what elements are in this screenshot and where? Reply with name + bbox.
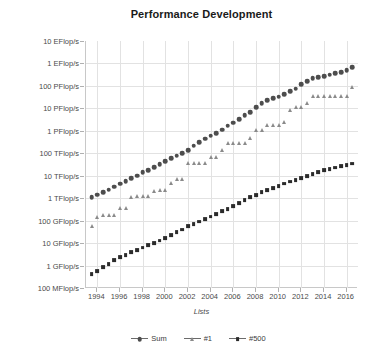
y-gridline <box>86 176 358 177</box>
data-point-n500 <box>209 215 213 219</box>
x-axis-tick-label: 2014 <box>315 292 332 301</box>
data-point-Sum <box>310 76 315 81</box>
data-point-n1 <box>294 105 298 109</box>
data-point-Sum <box>89 195 94 200</box>
data-point-Sum <box>305 79 310 84</box>
y-gridline <box>86 63 358 64</box>
data-point-Sum <box>327 73 332 78</box>
data-point-Sum <box>197 140 202 145</box>
data-point-Sum <box>265 98 270 103</box>
data-point-n1 <box>282 120 286 124</box>
data-point-n1 <box>345 94 349 98</box>
x-axis-tick-label: 2010 <box>269 292 286 301</box>
data-point-Sum <box>203 137 208 142</box>
data-point-n500 <box>271 186 275 190</box>
y-tick-mark <box>80 153 84 154</box>
y-tick-mark <box>80 131 84 132</box>
data-point-n500 <box>129 250 133 254</box>
data-point-n500 <box>152 241 156 245</box>
data-point-n500 <box>90 272 94 276</box>
data-point-Sum <box>123 179 128 184</box>
y-axis-tick-label: 100 MFlop/s <box>38 284 79 293</box>
data-point-n500 <box>339 165 343 169</box>
data-point-n1 <box>135 194 139 198</box>
data-point-Sum <box>299 82 304 87</box>
data-point-n1 <box>118 206 122 210</box>
data-point-n1 <box>243 141 247 145</box>
y-gridline <box>86 266 358 267</box>
data-point-Sum <box>135 173 140 178</box>
y-axis-tick-label: 10 GFlop/s <box>42 239 79 248</box>
data-point-Sum <box>316 75 321 80</box>
x-axis-tick-label: 2016 <box>337 292 354 301</box>
x-axis-tick-label: 1996 <box>111 292 128 301</box>
data-point-n1 <box>311 94 315 98</box>
y-gridline <box>86 198 358 199</box>
data-point-Sum <box>214 131 219 136</box>
data-point-n500 <box>95 269 99 273</box>
y-tick-mark <box>80 86 84 87</box>
x-axis-tick-label: 1998 <box>133 292 150 301</box>
x-gridline <box>120 41 121 288</box>
data-point-n1 <box>237 141 241 145</box>
data-point-Sum <box>101 190 106 195</box>
y-gridline <box>86 221 358 222</box>
data-point-n500 <box>288 180 292 184</box>
y-tick-mark <box>80 63 84 64</box>
y-tick-mark <box>80 198 84 199</box>
data-point-Sum <box>208 134 213 139</box>
data-point-n1 <box>112 213 116 217</box>
data-point-Sum <box>157 162 162 167</box>
data-point-n1 <box>124 206 128 210</box>
data-point-Sum <box>118 181 123 186</box>
data-point-n1 <box>299 105 303 109</box>
data-point-n500 <box>237 201 241 205</box>
chart-legend: Sum#1#500 <box>0 334 375 343</box>
data-point-n500 <box>118 255 122 259</box>
data-point-n1 <box>146 194 150 198</box>
y-gridline <box>86 86 358 87</box>
data-point-Sum <box>259 101 264 106</box>
y-gridline <box>86 153 358 154</box>
x-gridline <box>256 41 257 288</box>
data-point-n500 <box>192 222 196 226</box>
data-point-n500 <box>231 204 235 208</box>
y-tick-mark <box>80 266 84 267</box>
data-point-n1 <box>186 161 190 165</box>
data-point-n500 <box>175 230 179 234</box>
data-point-Sum <box>248 110 253 115</box>
y-tick-mark <box>80 288 84 289</box>
legend-item-n500[interactable]: #500 <box>229 334 266 343</box>
x-gridline <box>211 41 212 288</box>
x-gridline <box>143 41 144 288</box>
data-point-n500 <box>260 191 264 195</box>
data-point-n500 <box>316 170 320 174</box>
data-point-n500 <box>305 174 309 178</box>
data-point-n1 <box>169 181 173 185</box>
data-point-n1 <box>316 94 320 98</box>
data-point-n500 <box>254 193 258 197</box>
data-point-n1 <box>350 85 354 89</box>
data-point-n500 <box>282 182 286 186</box>
x-gridline <box>165 41 166 288</box>
data-point-Sum <box>140 170 145 175</box>
y-tick-mark <box>80 41 84 42</box>
legend-item-Sum[interactable]: Sum <box>131 334 166 343</box>
performance-development-chart: Performance Development 10 EFlop/s1 EFlo… <box>0 0 375 364</box>
data-point-n500 <box>101 265 105 269</box>
x-axis-tick-label: 2002 <box>179 292 196 301</box>
data-point-n1 <box>163 188 167 192</box>
data-point-n1 <box>226 141 230 145</box>
data-point-Sum <box>288 89 293 94</box>
data-point-n1 <box>260 128 264 132</box>
data-point-n500 <box>333 166 337 170</box>
legend-item-n1[interactable]: #1 <box>184 334 212 343</box>
x-axis-tick-label: 2006 <box>224 292 241 301</box>
data-point-n1 <box>220 148 224 152</box>
data-point-Sum <box>271 96 276 101</box>
data-point-Sum <box>350 65 355 70</box>
data-point-n500 <box>345 163 349 167</box>
data-point-Sum <box>333 71 338 76</box>
data-point-n1 <box>192 161 196 165</box>
y-axis-tick-label: 10 TFlop/s <box>44 171 79 180</box>
